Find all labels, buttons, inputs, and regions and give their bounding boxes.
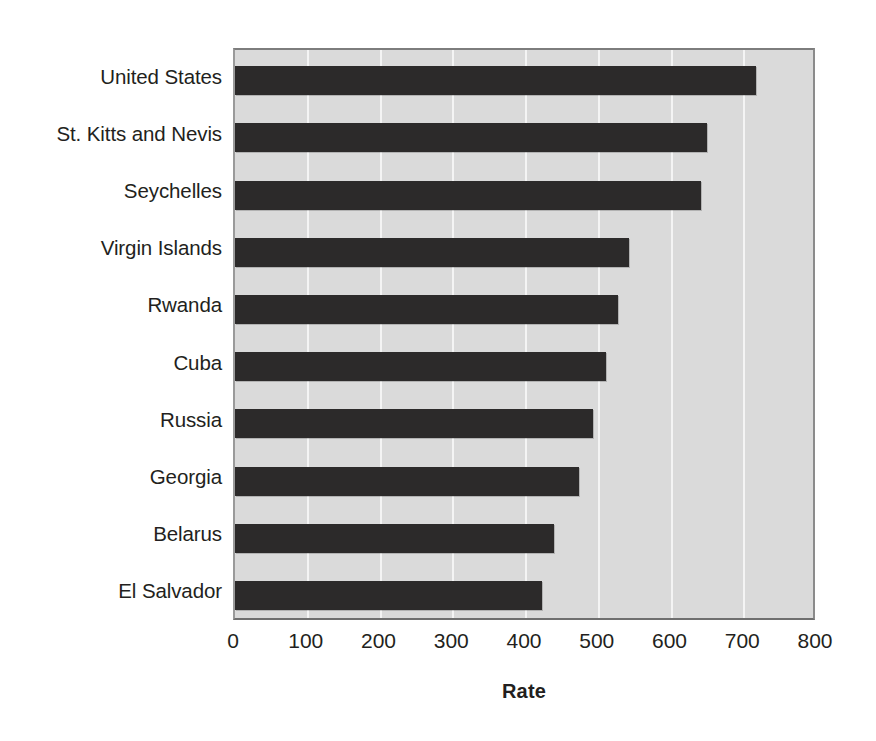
plot-inner [235, 50, 813, 618]
plot-area [233, 48, 815, 620]
bar [235, 123, 707, 152]
bar [235, 409, 593, 438]
x-tick-label: 800 [797, 630, 832, 651]
bar [235, 467, 579, 496]
bar-chart-figure: United StatesSt. Kitts and NevisSeychell… [0, 0, 876, 741]
category-label: Russia [0, 410, 222, 431]
bar [235, 581, 542, 610]
category-label: El Salvador [0, 581, 222, 602]
category-label: Cuba [0, 353, 222, 374]
x-tick-label: 100 [288, 630, 323, 651]
category-label: St. Kitts and Nevis [0, 124, 222, 145]
x-tick-label: 500 [579, 630, 614, 651]
gridline [743, 50, 745, 618]
x-tick-label: 300 [434, 630, 469, 651]
x-tick-label: 700 [725, 630, 760, 651]
bar [235, 181, 701, 210]
bar [235, 66, 756, 95]
x-tick-label: 600 [652, 630, 687, 651]
bar [235, 295, 618, 324]
x-tick-label: 400 [506, 630, 541, 651]
category-axis-labels: United StatesSt. Kitts and NevisSeychell… [0, 48, 222, 620]
bar [235, 352, 606, 381]
category-label: Georgia [0, 467, 222, 488]
x-tick-label: 200 [361, 630, 396, 651]
x-axis-title: Rate [233, 680, 815, 703]
x-axis-tick-labels: 0100200300400500600700800 [0, 630, 876, 664]
bar [235, 524, 554, 553]
bar [235, 238, 629, 267]
x-tick-label: 0 [227, 630, 239, 651]
category-label: Seychelles [0, 181, 222, 202]
category-label: United States [0, 67, 222, 88]
category-label: Belarus [0, 524, 222, 545]
category-label: Virgin Islands [0, 238, 222, 259]
category-label: Rwanda [0, 295, 222, 316]
